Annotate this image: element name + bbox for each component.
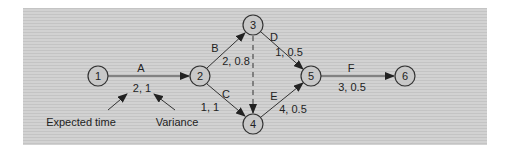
node-6-label: 6 [402, 70, 408, 82]
activity-f-name: F [348, 62, 355, 74]
activity-b-name: B [211, 42, 218, 54]
node-5-label: 5 [308, 70, 314, 82]
pert-network: 1 2 3 4 5 6 A 2, 1 B 2, 0.8 C 1, 1 D 1, … [0, 0, 506, 155]
node-4: 4 [243, 114, 263, 134]
activity-b-values: 2, 0.8 [222, 55, 250, 67]
node-3-label: 3 [250, 19, 256, 31]
expected-time-pointer [108, 94, 127, 110]
node-5: 5 [301, 66, 321, 86]
node-1: 1 [88, 66, 108, 86]
activity-e-values: 4, 0.5 [279, 103, 307, 115]
node-3: 3 [243, 15, 263, 35]
variance-pointer [154, 94, 175, 110]
activity-d-values: 1, 0.5 [275, 46, 303, 58]
node-6: 6 [395, 66, 415, 86]
expected-time-label: Expected time [46, 116, 116, 128]
node-2: 2 [190, 66, 210, 86]
activity-c-values: 1, 1 [201, 101, 219, 113]
activity-e-name: E [270, 90, 277, 102]
node-4-label: 4 [250, 118, 256, 130]
node-2-label: 2 [197, 70, 203, 82]
activity-a-name: A [137, 62, 145, 74]
node-1-label: 1 [95, 70, 101, 82]
activity-f-values: 3, 0.5 [338, 81, 366, 93]
variance-label: Variance [156, 116, 199, 128]
activity-d-name: D [270, 31, 278, 43]
activity-c-name: C [222, 88, 230, 100]
activity-a-values: 2, 1 [133, 82, 151, 94]
